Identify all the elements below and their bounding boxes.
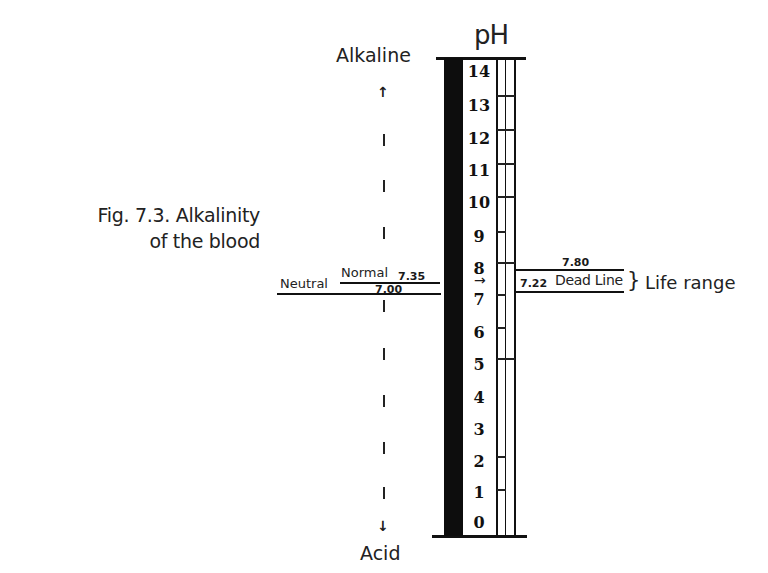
ph-tick-1: 1 (464, 483, 494, 502)
ph-tick-5: 5 (464, 355, 494, 374)
alkaline-label: Alkaline (336, 44, 411, 66)
ph-tick-2: 2 (464, 452, 494, 471)
figure-caption: Fig. 7.3. Alkalinity of the blood (60, 202, 260, 254)
ph-tick-4: 4 (464, 388, 494, 407)
ph-tick-9: 9 (464, 227, 494, 246)
black-band (444, 58, 463, 536)
caption-line-1: Fig. 7.3. Alkalinity (60, 202, 260, 228)
ph-tick-10: 10 (464, 193, 494, 212)
neutral-label: Neutral (280, 276, 328, 291)
acid-label: Acid (360, 542, 400, 564)
ph-tick-14: 14 (464, 62, 494, 81)
lower-value: 7.22 (520, 277, 547, 290)
ph-tick-11: 11 (464, 161, 494, 180)
scale-title: pH (474, 20, 508, 50)
ph-tick-6: 6 (464, 323, 494, 342)
up-arrow-icon: ↑ (377, 84, 389, 100)
life-range-label: Life range (645, 272, 736, 293)
ph-tick-12: 12 (464, 129, 494, 148)
ph-tick-3: 3 (464, 420, 494, 439)
brace-icon: } (627, 268, 640, 292)
normal-pointer-arrow-icon: → (474, 272, 486, 288)
ph-tick-0: 0 (464, 513, 494, 532)
neutral-value: 7.00 (375, 283, 402, 296)
ph-tick-13: 13 (464, 96, 494, 115)
down-arrow-icon: ↓ (377, 518, 389, 534)
ph-tick-7: 7 (464, 290, 494, 309)
upper-value: 7.80 (562, 256, 589, 269)
dead-line-label: Dead Line (555, 272, 623, 288)
caption-line-2: of the blood (60, 228, 260, 254)
normal-label: Normal (341, 265, 388, 280)
